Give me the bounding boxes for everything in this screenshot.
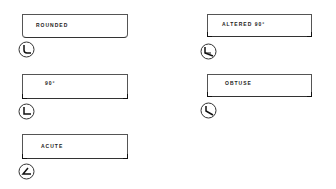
corner-mark-right — [307, 32, 312, 37]
corner-mark-left — [22, 154, 27, 159]
obtuse-corner-icon — [200, 102, 217, 119]
rounded-label: ROUNDED — [36, 22, 68, 28]
corner-mark-left — [22, 94, 27, 99]
corner-mark-left — [207, 32, 212, 37]
rounded-corner-icon — [18, 41, 35, 58]
rounded-box: ROUNDED — [22, 14, 128, 38]
90-label: 90° — [45, 80, 56, 86]
corner-mark-left — [207, 92, 212, 97]
acute-corner-icon — [18, 163, 35, 180]
corner-mark-right — [123, 94, 128, 99]
90-box: 90° — [22, 74, 128, 99]
acute-label: ACUTE — [41, 143, 63, 149]
obtuse-box: OBTUSE — [207, 74, 312, 97]
acute-box: ACUTE — [22, 134, 128, 159]
altered-90-corner-icon — [200, 43, 217, 60]
corner-mark-right — [123, 154, 128, 159]
corner-mark-right — [307, 92, 312, 97]
altered-90-box: ALTERED 90° — [207, 14, 312, 37]
obtuse-label: OBTUSE — [225, 80, 252, 86]
90-corner-icon — [18, 103, 35, 120]
altered-90-label: ALTERED 90° — [222, 21, 265, 27]
